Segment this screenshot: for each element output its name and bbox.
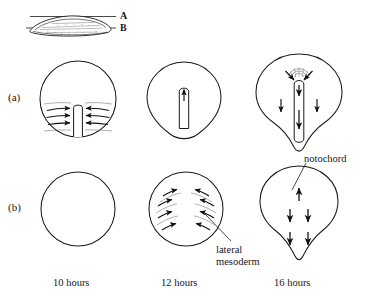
panel-a-10h-notochord — [74, 105, 83, 137]
notochord-label: notochord — [304, 153, 347, 164]
caption-12-hours: 12 hours — [161, 277, 197, 288]
lateral-mesoderm-label: lateral mesoderm — [216, 244, 286, 267]
panel-b-10h — [41, 172, 115, 246]
embryo-lateral-view — [26, 16, 116, 36]
row-label-b: (b) — [8, 201, 21, 213]
caption-10-hours: 10 hours — [53, 277, 89, 288]
panel-a-10h — [40, 61, 116, 137]
lateral-mesoderm-label-line1: lateral — [216, 244, 242, 255]
row-label-a: (a) — [8, 91, 20, 103]
panel-a-16h — [256, 54, 342, 151]
embryo-development-diagram — [0, 0, 371, 298]
section-label-a: A — [120, 10, 127, 21]
panel-b-10h-outline — [41, 172, 115, 246]
lateral-mesoderm-label-line2: mesoderm — [216, 256, 260, 267]
panel-a-12h — [147, 62, 221, 139]
panel-b-12h — [149, 172, 223, 246]
caption-16-hours: 16 hours — [274, 277, 310, 288]
panel-b-12h-outline — [149, 172, 223, 246]
section-label-b: B — [120, 22, 127, 33]
